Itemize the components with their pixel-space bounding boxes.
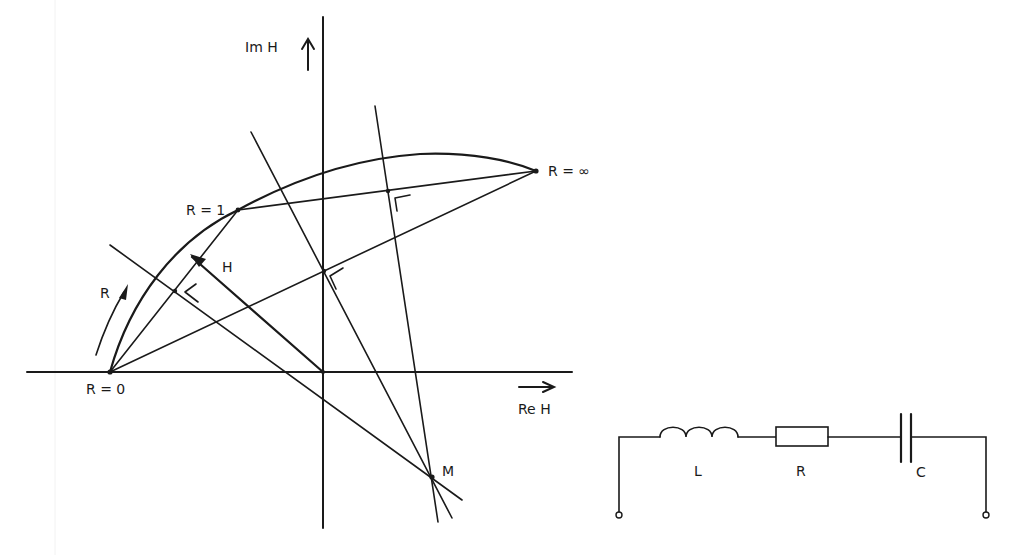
point-m xyxy=(429,474,434,479)
arrowhead-icon xyxy=(190,254,206,267)
lrc-circuit: L R C xyxy=(616,414,989,518)
point-r0 xyxy=(107,369,112,374)
r-direction-indicator: R xyxy=(96,284,128,355)
perpendicular-bisectors xyxy=(110,106,462,522)
inductor-symbol xyxy=(660,427,738,437)
label-inductor: L xyxy=(694,463,702,479)
point-rinf xyxy=(533,168,538,173)
imaginary-axis-label: Im H xyxy=(245,39,278,55)
label-rinf: R = ∞ xyxy=(548,163,590,179)
label-r0: R = 0 xyxy=(86,381,125,397)
label-resistor: R xyxy=(796,463,806,479)
h-vector-label: H xyxy=(222,259,233,275)
arrow-up-icon xyxy=(302,39,314,70)
terminal-left xyxy=(616,512,622,518)
point-r1 xyxy=(236,208,241,213)
imaginary-axis-label-group: Im H xyxy=(245,39,314,70)
arrow-right-icon xyxy=(519,382,554,392)
r-direction-label: R xyxy=(100,285,110,301)
right-angle-icon xyxy=(185,284,198,302)
label-capacitor: C xyxy=(916,464,926,480)
real-axis-label-group: Re H xyxy=(518,382,554,417)
terminal-right xyxy=(983,512,989,518)
bisector-r0-rinf xyxy=(251,132,452,518)
wire-left xyxy=(619,437,660,512)
arrowhead-icon xyxy=(119,284,128,300)
right-angle-icon xyxy=(395,195,410,211)
point-origin xyxy=(321,370,325,374)
real-axis-label: Re H xyxy=(518,401,551,417)
h-vector: H xyxy=(190,254,323,372)
label-m: M xyxy=(442,463,454,479)
locus-diagram: Im H Re H xyxy=(0,0,1018,555)
resistor-symbol xyxy=(776,427,828,446)
axes xyxy=(27,17,572,528)
label-r1: R = 1 xyxy=(186,202,225,218)
